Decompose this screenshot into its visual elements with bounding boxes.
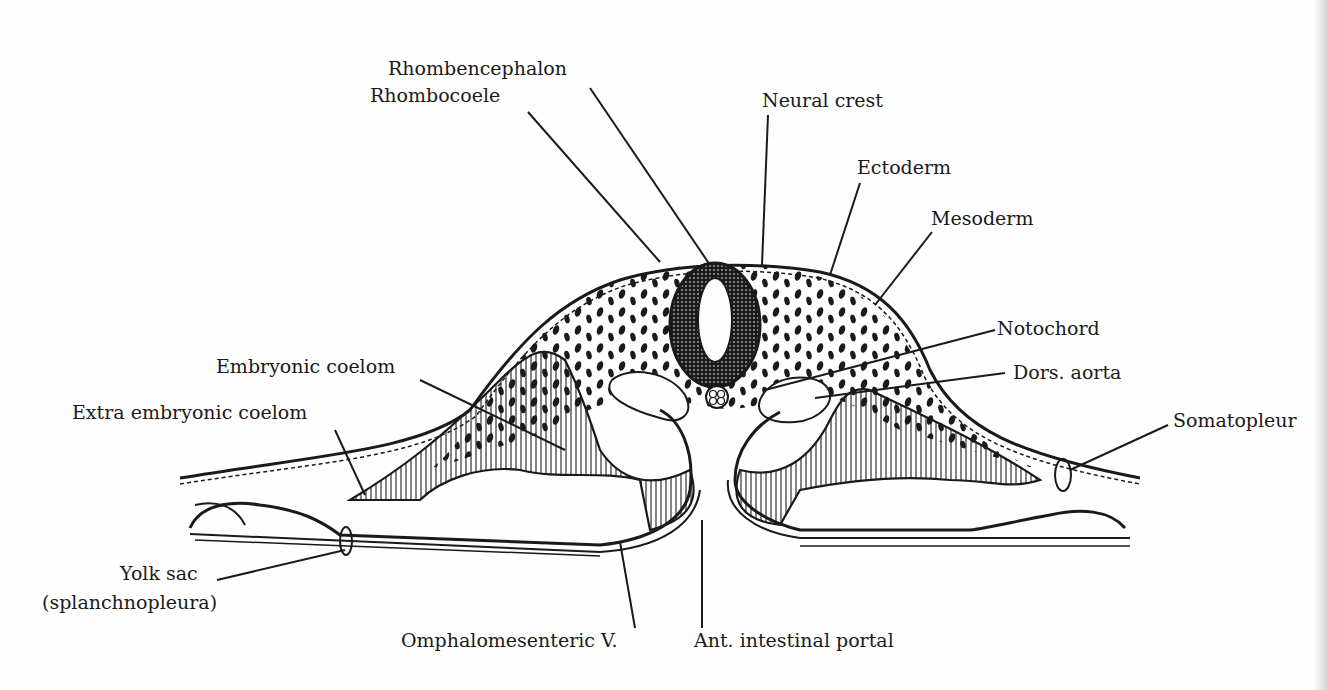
label-embryonic-coelom: Embryonic coelom	[216, 356, 395, 378]
label-mesoderm: Mesoderm	[931, 208, 1033, 230]
label-ectoderm: Ectoderm	[857, 157, 951, 179]
label-yolk-sac: Yolk sac	[120, 563, 198, 585]
label-ant-intestinal-portal: Ant. intestinal portal	[694, 630, 894, 652]
notochord	[706, 386, 728, 408]
diagram-canvas: Rhombencephalon Rhombocoele Neural crest…	[0, 0, 1327, 690]
label-rhombocoele: Rhombocoele	[370, 85, 500, 107]
label-yolk-sac-splanchnopleura: (splanchnopleura)	[42, 592, 217, 614]
label-rhombencephalon: Rhombencephalon	[388, 58, 567, 80]
label-extra-embryonic-coelom: Extra embryonic coelom	[72, 402, 307, 424]
label-neural-crest: Neural crest	[762, 90, 883, 112]
label-somatopleure: Somatopleur	[1173, 410, 1297, 432]
neural-tube	[670, 263, 760, 387]
label-omphalomesenteric-v: Omphalomesenteric V.	[401, 630, 618, 652]
page-edge-shadow	[1313, 0, 1327, 690]
embryo-cross-section-drawing	[0, 0, 1327, 690]
label-notochord: Notochord	[997, 318, 1100, 340]
label-dors-aorta: Dors. aorta	[1013, 362, 1121, 384]
